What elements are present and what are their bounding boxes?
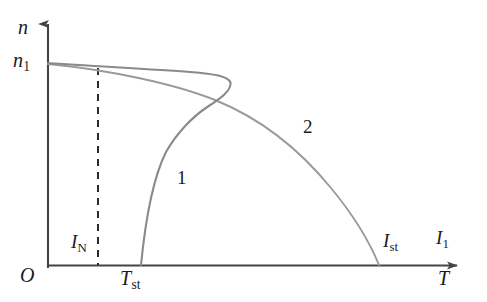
- curve-1-label: 1: [177, 168, 187, 187]
- origin-label: O: [20, 265, 34, 285]
- x-tick-label-tst-subscript: st: [131, 277, 140, 292]
- x-axis-label-torque: T: [438, 268, 449, 288]
- x-tick-label-tst: Tst: [120, 268, 140, 288]
- x-tick-label-in-base: I: [71, 231, 77, 252]
- x-axis-label-current: I1: [436, 228, 449, 247]
- y-axis-label: n: [18, 17, 28, 37]
- y-tick-label-n1-base: n: [13, 49, 23, 71]
- x-tick-label-ist-base: I: [383, 230, 389, 251]
- figure-graphics: [0, 0, 487, 302]
- x-tick-label-ist: Ist: [383, 231, 398, 250]
- x-axis-label-current-subscript: 1: [443, 236, 449, 251]
- y-tick-label-n1-subscript: 1: [23, 59, 30, 74]
- figure-canvas: n n1 O IN Tst Ist I1 T 1 2: [0, 0, 487, 302]
- y-tick-label-n1: n1: [13, 50, 30, 70]
- x-tick-label-tst-base: T: [120, 267, 131, 289]
- x-tick-label-in-subscript: N: [78, 240, 87, 255]
- x-tick-label-ist-subscript: st: [390, 239, 399, 254]
- x-axis-label-current-base: I: [436, 227, 442, 248]
- curve-2-label: 2: [303, 117, 313, 136]
- x-tick-label-in: IN: [71, 232, 87, 251]
